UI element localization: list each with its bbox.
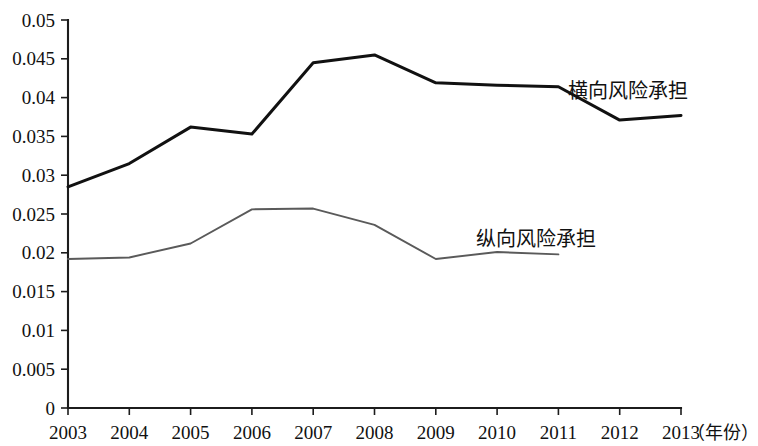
y-tick-label-7: 0.035: [12, 126, 55, 147]
x-tick-label-3: 2006: [233, 422, 271, 443]
x-tick-label-8: 2011: [540, 422, 577, 443]
y-tick-label-1: 0.005: [12, 359, 55, 380]
x-tick-label-7: 2010: [478, 422, 516, 443]
series-label-0: 横向风险承担: [568, 80, 688, 102]
y-tick-label-8: 0.04: [22, 87, 56, 108]
y-tick-label-3: 0.015: [12, 281, 55, 302]
x-tick-label-6: 2009: [417, 422, 455, 443]
chart-canvas: 00.0050.010.0150.020.0250.030.0350.040.0…: [0, 0, 758, 446]
y-tick-label-2: 0.01: [22, 320, 55, 341]
y-tick-label-0: 0: [46, 398, 56, 419]
x-tick-label-9: 2012: [601, 422, 639, 443]
x-tick-label-5: 2008: [356, 422, 394, 443]
x-axis-ticks: 2003200420052006200720082009201020112012…: [49, 408, 700, 443]
series-label-1: 纵向风险承担: [476, 228, 596, 250]
x-axis-unit-label: （年份）: [687, 423, 758, 443]
y-tick-label-4: 0.02: [22, 242, 55, 263]
x-tick-label-2: 2005: [172, 422, 210, 443]
y-axis-group: 00.0050.010.0150.020.0250.030.0350.040.0…: [12, 10, 68, 419]
y-tick-label-6: 0.03: [22, 165, 55, 186]
x-tick-label-0: 2003: [49, 422, 87, 443]
y-axis-ticks: 00.0050.010.0150.020.0250.030.0350.040.0…: [12, 10, 68, 419]
y-tick-label-10: 0.05: [22, 10, 55, 31]
series-line-0: [68, 55, 681, 187]
x-tick-label-1: 2004: [110, 422, 149, 443]
x-tick-label-4: 2007: [294, 422, 332, 443]
x-axis-group: 2003200420052006200720082009201020112012…: [49, 408, 700, 443]
y-tick-label-9: 0.045: [12, 48, 55, 69]
y-tick-label-5: 0.025: [12, 204, 55, 225]
series-inline-labels: 横向风险承担纵向风险承担: [476, 80, 688, 250]
line-chart-figure: 00.0050.010.0150.020.0250.030.0350.040.0…: [0, 0, 758, 446]
